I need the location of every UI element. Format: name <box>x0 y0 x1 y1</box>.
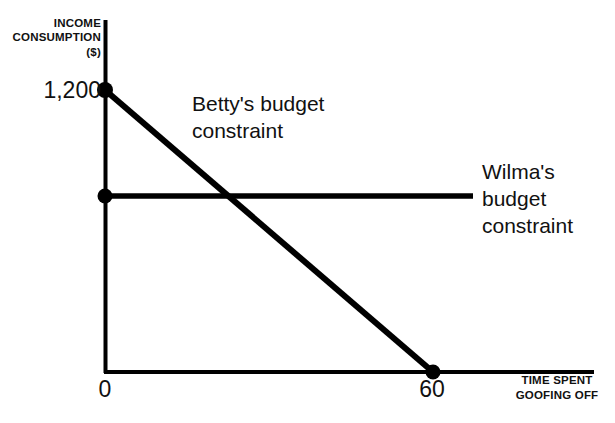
betty-label-line2: constraint <box>192 119 283 142</box>
budget-constraint-figure: INCOMECONSUMPTION($) 1,200 0 60 TIME SPE… <box>0 0 615 423</box>
y-axis-tick-label-1200: 1,200 <box>0 78 101 104</box>
betty-label-line1: Betty's budget <box>192 92 324 115</box>
wilma-budget-constraint-label: Wilma'sbudgetconstraint <box>482 159 573 240</box>
x-axis-title: TIME SPENTGOOFING OFF <box>498 373 615 403</box>
wilma-label-line2: budget <box>482 187 546 210</box>
x-axis-title-line2: GOOFING OFF <box>516 389 599 401</box>
x-axis-tick-label-60: 60 <box>406 377 458 403</box>
wilma-intercept-marker <box>98 189 113 204</box>
y-axis-title: INCOMECONSUMPTION($) <box>0 16 101 59</box>
x-axis-tick-label-0: 0 <box>86 377 124 403</box>
wilma-label-line1: Wilma's <box>482 160 555 183</box>
y-axis-title-line2: CONSUMPTION <box>13 31 101 43</box>
betty-budget-constraint-label: Betty's budgetconstraint <box>192 91 324 145</box>
wilma-label-line3: constraint <box>482 214 573 237</box>
x-axis-title-line1: TIME SPENT <box>521 374 592 386</box>
y-axis-title-line1: INCOME <box>54 17 101 29</box>
y-axis-title-line3: ($) <box>86 46 101 58</box>
